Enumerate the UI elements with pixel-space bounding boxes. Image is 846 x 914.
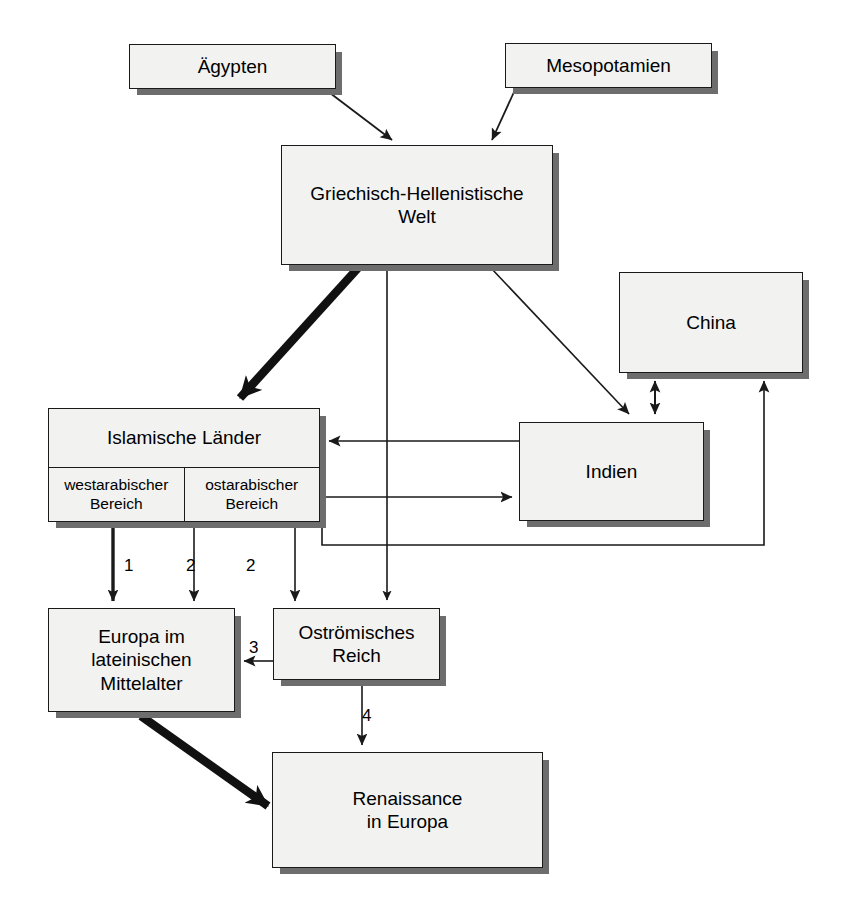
node-griechisch-hellenistische-welt[interactable]: Griechisch-Hellenistische Welt: [281, 145, 553, 265]
edge-aegypten-to-griechisch: [330, 93, 392, 140]
subregion-westarabischer-bereich-label: westarabischer Bereich: [58, 476, 174, 513]
edge-label-2b: 2: [246, 556, 255, 576]
subregion-ostarabischer-bereich[interactable]: ostarabischer Bereich: [184, 468, 320, 521]
node-aegypten[interactable]: Ägypten: [129, 44, 336, 89]
node-ostroemisches-reich-label: Oströmisches Reich: [274, 621, 439, 667]
node-china-label: China: [620, 311, 802, 334]
node-indien[interactable]: Indien: [519, 422, 704, 521]
edge-label-3: 3: [249, 638, 258, 658]
edge-griechisch-to-indien: [490, 267, 629, 414]
node-china[interactable]: China: [619, 272, 803, 373]
edge-mesopotamien-to-griechisch: [492, 92, 514, 140]
node-aegypten-label: Ägypten: [130, 55, 335, 78]
node-islamische-laender-title-row: Islamische Länder: [49, 409, 319, 468]
edge-griechisch-to-islamische: [240, 268, 358, 398]
node-mesopotamien-label: Mesopotamien: [506, 54, 711, 77]
node-europa-im-lateinischen-mittelalter[interactable]: Europa im lateinischen Mittelalter: [48, 608, 235, 712]
node-renaissance-in-europa[interactable]: Renaissance in Europa: [272, 752, 543, 868]
node-renaissance-in-europa-label: Renaissance in Europa: [273, 787, 542, 833]
diagram-canvas: Ägypten Mesopotamien Griechisch-Hellenis…: [0, 0, 846, 914]
node-islamische-laender-title: Islamische Länder: [101, 426, 267, 449]
node-indien-label: Indien: [520, 460, 703, 483]
node-islamische-laender[interactable]: Islamische Länder westarabischer Bereich…: [48, 408, 320, 522]
edge-label-1: 1: [124, 556, 133, 576]
edge-label-4: 4: [362, 706, 371, 726]
subregion-westarabischer-bereich[interactable]: westarabischer Bereich: [49, 468, 184, 521]
edge-europa-to-renaissance: [141, 716, 268, 806]
node-europa-im-lateinischen-mittelalter-label: Europa im lateinischen Mittelalter: [49, 625, 234, 695]
node-mesopotamien[interactable]: Mesopotamien: [505, 43, 712, 88]
node-griechisch-hellenistische-welt-label: Griechisch-Hellenistische Welt: [282, 182, 552, 228]
node-ostroemisches-reich[interactable]: Oströmisches Reich: [273, 608, 440, 680]
node-islamische-laender-subregions: westarabischer Bereich ostarabischer Ber…: [49, 468, 319, 521]
edge-label-2a: 2: [186, 556, 195, 576]
subregion-ostarabischer-bereich-label: ostarabischer Bereich: [199, 476, 304, 513]
